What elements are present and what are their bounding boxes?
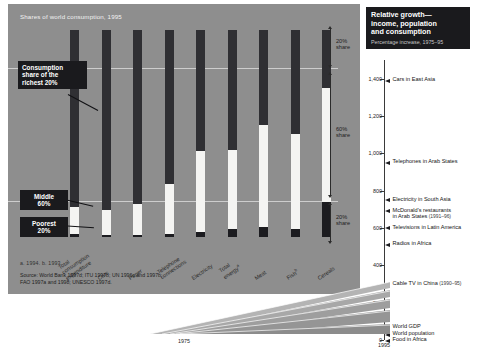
left-axis-base-year: 1975	[178, 338, 190, 344]
bracket-label-mid: 60%share	[336, 126, 350, 139]
growth-item-note: (1990–95)	[438, 281, 462, 286]
share-bracket-annotations: 20%share 60%share 20%share	[322, 26, 356, 242]
axis-tick-label-1400: 1,400	[366, 76, 382, 82]
bracket-label-bot: 20%share	[336, 214, 350, 227]
bar-segment-poorest-20	[291, 229, 300, 237]
bar-segment-poorest-20	[259, 227, 268, 237]
bar-segment-poorest-20	[196, 232, 205, 237]
growth-item-marker	[385, 226, 390, 230]
bar-segment-middle-60	[102, 210, 111, 235]
right-axis-base-year: 1995	[378, 342, 390, 348]
growth-item-label: Food in Africa	[393, 336, 427, 343]
growth-item-note: (1991–96)	[427, 214, 451, 219]
growth-item-label: Radios in Africa	[393, 240, 432, 247]
bracket-label-top: 20%share	[336, 38, 350, 51]
bar-segment-middle-60	[291, 134, 300, 229]
axis-tick-label-600: 600	[366, 225, 382, 231]
growth-item-marker	[385, 161, 390, 165]
left-panel-title: Shares of world consumption, 1995	[20, 13, 122, 20]
bar-cars	[102, 30, 111, 237]
bracket-line-top	[330, 29, 331, 65]
growth-item-label: Televisions in Latin America	[393, 224, 462, 231]
bar-segment-middle-60	[70, 207, 79, 234]
bar-segment-poorest-20	[102, 235, 111, 237]
right-panel-subtitle: Percentage increase, 1975–95	[371, 39, 465, 45]
footnote-text: a. 1994. b. 1993.	[20, 260, 62, 266]
bar-segment-middle-60	[259, 125, 268, 226]
left-chart-panel: Shares of world consumption, 1995 Totalc…	[8, 4, 360, 294]
bar-meat	[259, 30, 268, 237]
bar-paper	[133, 30, 142, 237]
bracket-arrow-down-bot	[328, 241, 332, 244]
right-panel-title-box: Relative growth—income, populationand co…	[366, 7, 470, 49]
bracket-line-mid	[330, 75, 331, 195]
growth-item-marker	[385, 198, 390, 202]
figure-container: Shares of world consumption, 1995 Totalc…	[0, 0, 478, 354]
bar-segment-poorest-20	[165, 234, 174, 237]
growth-item-marker	[385, 209, 390, 213]
bar-segment-middle-60	[196, 151, 205, 232]
bar-segment-middle-60	[133, 204, 142, 235]
bar-label-footnote-marker: a	[235, 263, 240, 268]
bar-label-cereals: Cereals	[316, 265, 336, 281]
bar-segment-middle-60	[165, 184, 174, 234]
bar-electricity	[196, 30, 205, 237]
growth-item-marker	[385, 79, 390, 83]
axis-tick-label-800: 800	[366, 188, 382, 194]
bracket-arrow-down-top	[328, 65, 332, 68]
axis-tick-label-1000: 1,000	[366, 150, 382, 156]
bar-label-meat: Meat	[253, 269, 267, 281]
bar-segment-poorest-20	[228, 229, 237, 237]
axis-tick-label-1200: 1,200	[366, 113, 382, 119]
bar-total-energy	[228, 30, 237, 237]
growth-item-label: Telephones in Arab States	[393, 158, 458, 165]
growth-item-label: Electricity in South Asia	[393, 196, 451, 203]
axis-tick-label-400: 400	[366, 262, 382, 268]
growth-item-label: Cable TV in China (1990–95)	[393, 280, 462, 288]
bar-segment-middle-60	[228, 150, 237, 229]
bar-segment-poorest-20	[133, 235, 142, 237]
bracket-arrow-down-mid	[328, 195, 332, 198]
right-panel-title: Relative growth—income, populationand co…	[371, 11, 465, 37]
bar-label-fish: Fishb	[284, 267, 299, 281]
callout-poorest-20: Poorest20%	[20, 217, 68, 237]
perspective-fan	[140, 282, 390, 334]
callout-middle-60: Middle60%	[20, 190, 68, 210]
growth-item-label: Cars in East Asia	[393, 76, 436, 83]
bar-label-footnote-marker: b	[293, 267, 298, 272]
growth-item-marker	[385, 243, 390, 247]
growth-item-label: McDonald's restaurantsin Arab States (19…	[393, 207, 452, 221]
bar-fish	[291, 30, 300, 237]
bar-telephone-connections	[165, 30, 174, 237]
callout-richest-20: Consumptionshare of therichest 20%	[18, 61, 87, 89]
bracket-line-bot	[330, 205, 331, 241]
bar-segment-poorest-20	[70, 234, 79, 237]
